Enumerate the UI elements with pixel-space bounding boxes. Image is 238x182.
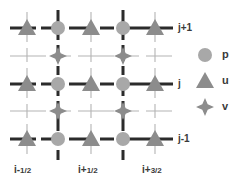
column-label-fraction: 1/2: [87, 166, 98, 175]
column-label-fraction: 1/2: [20, 166, 31, 175]
p-node-marker: [51, 21, 65, 35]
legend-label-v: v: [222, 100, 228, 112]
column-label-base: i+: [78, 164, 87, 175]
legend-circle-icon: [198, 48, 212, 62]
column-label-1: i+1/2: [78, 164, 98, 175]
legend-triangle-icon: [196, 72, 214, 88]
p-node-marker: [51, 77, 65, 91]
legend-glyphs: [196, 48, 214, 116]
row-label-0: j+1: [178, 22, 192, 33]
p-node-marker: [51, 132, 65, 146]
grid-canvas: [0, 0, 238, 182]
column-label-denominator: 2: [93, 166, 97, 175]
row-label-2: j-1: [178, 133, 190, 144]
column-label-2: i+3/2: [142, 164, 162, 175]
column-label-denominator: 2: [157, 166, 161, 175]
staggered-grid-figure: j+1jj-1 i-1/2i+1/2i+3/2 puv: [0, 0, 238, 182]
v-node-marker: [114, 102, 132, 120]
column-label-0: i-1/2: [14, 164, 31, 175]
legend-label-p: p: [222, 48, 229, 60]
legend-label-u: u: [222, 74, 229, 86]
column-label-denominator: 2: [27, 166, 31, 175]
legend-star4-icon: [196, 98, 214, 116]
p-node-marker: [116, 77, 130, 91]
column-label-fraction: 3/2: [151, 166, 162, 175]
v-node-marker: [49, 102, 67, 120]
p-node-marker: [116, 21, 130, 35]
v-node-marker: [49, 47, 67, 65]
column-label-base: i+: [142, 164, 151, 175]
row-label-1: j: [178, 78, 181, 89]
v-node-marker: [114, 47, 132, 65]
p-node-marker: [116, 132, 130, 146]
